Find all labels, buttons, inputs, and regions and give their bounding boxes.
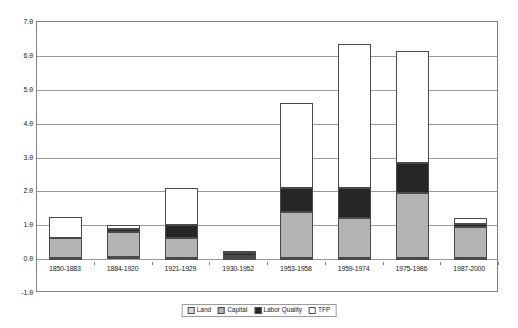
bar-segment-land[interactable] <box>49 258 82 260</box>
stacked-bar-chart: 7.06.05.04.03.02.01.00.0-1.0 1850-188318… <box>0 0 518 328</box>
bar-segment-labor-quality[interactable] <box>223 253 256 255</box>
bar-segment-land[interactable] <box>454 258 487 260</box>
y-axis-tick-mark <box>30 21 33 22</box>
y-axis: 7.06.05.04.03.02.01.00.0-1.0 <box>0 21 33 292</box>
bar-segment-tfp[interactable] <box>107 225 140 229</box>
bar-segment-labor-quality[interactable] <box>396 163 429 193</box>
y-axis-tick-label: 6.0 <box>3 51 33 58</box>
legend-label: Capital <box>227 307 247 314</box>
bar-column[interactable] <box>107 22 140 293</box>
bar-segment-tfp[interactable] <box>165 188 198 225</box>
bar-column[interactable] <box>49 22 82 293</box>
bar-segment-capital[interactable] <box>49 238 82 258</box>
y-axis-tick-mark <box>30 157 33 158</box>
y-axis-tick-label: 1.0 <box>3 221 33 228</box>
bar-segment-tfp[interactable] <box>49 217 82 238</box>
bar-segment-capital[interactable] <box>107 232 140 257</box>
y-axis-tick-label: 0.0 <box>3 255 33 262</box>
legend-item-labor-quality[interactable]: Labor Quality <box>254 307 302 314</box>
x-axis-tick-label: 1953-1958 <box>266 265 326 272</box>
bar-column[interactable] <box>338 22 371 293</box>
y-axis-tick-mark <box>30 258 33 259</box>
bar-segment-tfp[interactable] <box>338 44 371 188</box>
bar-segment-capital[interactable] <box>454 227 487 259</box>
x-axis: 1850-18831884-19201921-19291930-19521953… <box>36 262 498 278</box>
legend-label: Labor Quality <box>263 307 302 314</box>
bar-segment-land[interactable] <box>280 258 313 260</box>
bar-segment-tfp[interactable] <box>396 51 429 163</box>
y-axis-tick-label: 7.0 <box>3 18 33 25</box>
bar-segment-capital[interactable] <box>280 212 313 259</box>
chart-legend: LandCapitalLabor QualityTFP <box>182 304 337 317</box>
y-axis-tick-mark <box>30 292 33 293</box>
bar-segment-capital[interactable] <box>223 256 256 259</box>
bar-segment-tfp[interactable] <box>280 103 313 188</box>
bar-segment-capital[interactable] <box>165 238 198 258</box>
bar-segment-land[interactable] <box>338 258 371 260</box>
x-axis-tick-mark <box>36 262 37 265</box>
y-axis-tick-mark <box>30 123 33 124</box>
bar-segment-labor-quality[interactable] <box>165 225 198 238</box>
bar-segment-capital[interactable] <box>338 218 371 258</box>
legend-label: Land <box>197 307 211 314</box>
legend-item-capital[interactable]: Capital <box>218 307 247 314</box>
x-axis-tick-label: 1850-1883 <box>35 265 95 272</box>
y-axis-tick-mark <box>30 55 33 56</box>
x-axis-tick-label: 1975-1986 <box>381 265 441 272</box>
land-swatch <box>188 307 195 314</box>
labor-quality-swatch <box>254 307 261 314</box>
bar-segment-land[interactable] <box>107 257 140 259</box>
capital-swatch <box>218 307 225 314</box>
bar-column[interactable] <box>454 22 487 293</box>
y-axis-tick-label: 2.0 <box>3 187 33 194</box>
x-axis-tick-label: 1884-1920 <box>93 265 153 272</box>
bar-column[interactable] <box>396 22 429 293</box>
bar-segment-land[interactable] <box>396 258 429 260</box>
x-axis-tick-label: 1930-1952 <box>208 265 268 272</box>
bar-segment-tfp[interactable] <box>454 218 487 223</box>
tfp-swatch <box>309 307 316 314</box>
bar-segment-labor-quality[interactable] <box>454 224 487 227</box>
bar-segment-tfp[interactable] <box>223 251 256 254</box>
x-axis-tick-label: 1987-2000 <box>439 265 499 272</box>
y-axis-tick-label: -1.0 <box>3 289 33 296</box>
legend-label: TFP <box>318 307 330 314</box>
x-axis-tick-label: 1921-1929 <box>150 265 210 272</box>
bar-segment-labor-quality[interactable] <box>107 229 140 232</box>
y-axis-tick-mark <box>30 89 33 90</box>
legend-item-land[interactable]: Land <box>188 307 211 314</box>
bar-segment-capital[interactable] <box>396 193 429 258</box>
y-axis-tick-mark <box>30 190 33 191</box>
bar-segment-labor-quality[interactable] <box>338 188 371 218</box>
y-axis-tick-label: 3.0 <box>3 153 33 160</box>
y-axis-tick-label: 5.0 <box>3 85 33 92</box>
legend-item-tfp[interactable]: TFP <box>309 307 330 314</box>
x-axis-tick-label: 1959-1974 <box>324 265 384 272</box>
y-axis-tick-label: 4.0 <box>3 119 33 126</box>
bar-segment-land[interactable] <box>223 258 256 260</box>
bar-column[interactable] <box>223 22 256 293</box>
plot-area <box>36 21 498 292</box>
bar-column[interactable] <box>165 22 198 293</box>
bar-segment-labor-quality[interactable] <box>280 188 313 212</box>
bar-segment-land[interactable] <box>165 258 198 260</box>
bar-column[interactable] <box>280 22 313 293</box>
y-axis-tick-mark <box>30 224 33 225</box>
